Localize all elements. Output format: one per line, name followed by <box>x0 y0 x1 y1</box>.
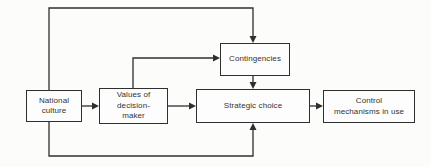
arrow-national-to-values <box>82 103 99 110</box>
arrow-contingencies-to-strategic <box>250 76 257 89</box>
arrow-national-to-strategic-bottom <box>49 122 257 156</box>
box-strategic-choice: Strategic choice <box>196 89 310 123</box>
arrowhead-right-icon <box>92 103 99 110</box>
box-national-culture: National culture <box>26 90 82 122</box>
box-values-of-decision-maker-label: Values of decision- maker <box>117 90 151 121</box>
arrowhead-right-icon <box>316 103 323 110</box>
box-control-mechanisms-in-use: Control mechanisms in use <box>323 90 415 123</box>
box-values-of-decision-maker: Values of decision- maker <box>99 88 168 124</box>
arrow-values-to-contingencies <box>133 55 220 89</box>
box-strategic-choice-label: Strategic choice <box>224 101 283 111</box>
arrow-values-to-strategic <box>168 103 196 110</box>
arrowhead-right-icon <box>189 103 196 110</box>
diagram-canvas: National culture Values of decision- mak… <box>0 0 431 167</box>
arrowhead-right-icon <box>213 55 220 62</box>
arrowhead-down-icon <box>250 82 257 89</box>
box-control-mechanisms-in-use-label: Control mechanisms in use <box>334 96 404 117</box>
box-national-culture-label: National culture <box>39 96 69 117</box>
diagram-connectors <box>0 0 431 167</box>
box-contingencies: Contingencies <box>220 43 290 76</box>
box-contingencies-label: Contingencies <box>229 54 281 64</box>
arrow-strategic-to-control <box>310 103 323 110</box>
arrowhead-up-icon <box>250 123 257 130</box>
arrowhead-down-icon <box>250 36 257 43</box>
